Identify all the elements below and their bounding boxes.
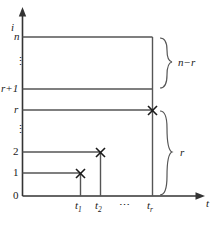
y-tick-0: 0 [13,190,19,201]
x-tick-t1-sub: 1 [78,205,82,214]
brace-label-n-minus-r: n−r [178,57,195,68]
y-tick-r-plus-1: r+1 [1,83,18,94]
x-tick-tr: tr [147,200,153,214]
brace-n-minus-r [160,38,172,88]
drop-lines [81,152,101,196]
step-lines [23,37,153,173]
y-tick-r: r [14,104,18,115]
diagram-canvas [0,0,220,226]
y-tick-1: 1 [13,167,19,178]
x-tick-ellipsis: ⋯ [119,200,130,211]
staircase-diagram: i t 0 1 2 ⋮ r r+1 ⋮ n t1 t2 ⋯ tr n−r r [0,0,220,226]
brace-label-r: r [180,147,184,158]
y-tick-ellipsis-lower: ⋮ [15,124,26,135]
x-tick-tr-sub: r [150,205,153,214]
x-axis [23,192,206,199]
x-tick-t1: t1 [75,200,82,214]
brace-r [160,111,172,195]
x-tick-t2: t2 [95,200,102,214]
x-tick-t2-sub: 2 [98,205,102,214]
y-tick-2: 2 [13,146,19,157]
x-axis-label: t [206,198,209,209]
y-tick-n: n [14,31,20,42]
y-tick-ellipsis-upper: ⋮ [15,56,26,67]
marker-group [76,106,157,178]
